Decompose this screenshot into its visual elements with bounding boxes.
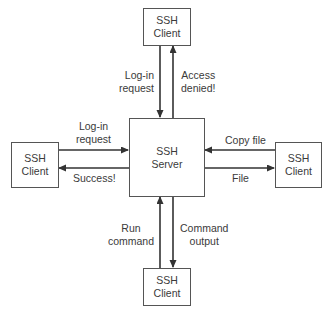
ssh-client-left: SSH Client (11, 142, 59, 188)
label-line: File (232, 172, 249, 185)
client-right-line2: Client (285, 165, 312, 178)
client-bottom-line1: SSH (156, 274, 178, 287)
server-line1: SSH (156, 145, 178, 158)
label-line: Success! (73, 172, 116, 185)
label-bottom-to-server: Run command (108, 222, 154, 247)
label-server-to-top: Access denied! (181, 69, 215, 94)
label-line: Command (180, 222, 228, 235)
label-line: Access (181, 69, 215, 82)
label-server-to-bottom: Command output (180, 222, 228, 247)
ssh-client-bottom: SSH Client (143, 268, 191, 306)
label-server-to-left: Success! (73, 172, 116, 185)
ssh-server: SSH Server (129, 118, 205, 197)
client-left-line2: Client (22, 165, 49, 178)
label-top-to-server: Log-in request (119, 69, 154, 94)
ssh-client-right: SSH Client (275, 142, 322, 188)
server-line2: Server (152, 158, 183, 171)
ssh-client-top: SSH Client (143, 8, 191, 46)
label-line: denied! (181, 82, 215, 95)
label-server-to-right: File (232, 172, 249, 185)
client-right-line1: SSH (288, 152, 310, 165)
client-left-line1: SSH (24, 152, 46, 165)
label-line: output (180, 235, 228, 248)
label-line: Run (108, 222, 154, 235)
label-line: request (119, 82, 154, 95)
label-line: request (76, 133, 111, 146)
label-line: Log-in (76, 120, 111, 133)
label-line: Log-in (119, 69, 154, 82)
label-right-to-server: Copy file (225, 134, 266, 147)
client-top-line2: Client (154, 27, 181, 40)
label-left-to-server: Log-in request (76, 120, 111, 145)
client-top-line1: SSH (156, 14, 178, 27)
client-bottom-line2: Client (154, 287, 181, 300)
label-line: Copy file (225, 134, 266, 147)
label-line: command (108, 235, 154, 248)
